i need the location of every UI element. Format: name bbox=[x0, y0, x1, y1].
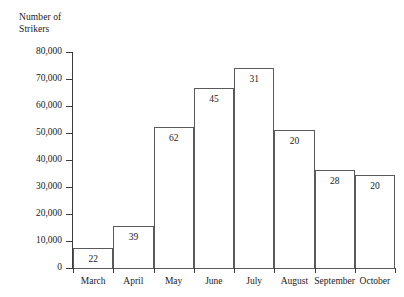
y-axis-tick-label: 80,000 bbox=[16, 47, 62, 57]
x-axis-tick-mark bbox=[154, 268, 155, 273]
y-axis-tick-label: 70,000 bbox=[16, 74, 62, 84]
bar bbox=[234, 68, 274, 269]
bar bbox=[274, 130, 314, 269]
y-axis-tick-mark bbox=[66, 160, 73, 161]
y-axis-tick-label-text: 50,000 bbox=[16, 128, 62, 138]
x-axis-tick-mark bbox=[113, 268, 114, 273]
bar-value-label: 20 bbox=[355, 181, 395, 191]
y-axis-tick-label: 20,000 bbox=[16, 209, 62, 219]
y-axis-tick-mark bbox=[66, 106, 73, 107]
y-axis-tick-label: 10,000 bbox=[16, 236, 62, 246]
y-axis-tick-mark bbox=[66, 187, 73, 188]
y-axis-tick-mark bbox=[66, 52, 73, 53]
y-axis-tick-label-text: 0 bbox=[16, 263, 62, 273]
y-axis-tick-label-text: 20,000 bbox=[16, 209, 62, 219]
bar-value-label: 31 bbox=[234, 74, 274, 84]
y-axis-tick-mark bbox=[66, 133, 73, 134]
y-axis-tick-label-text: 10,000 bbox=[16, 236, 62, 246]
y-axis-tick-mark bbox=[66, 241, 73, 242]
x-axis-tick-mark bbox=[395, 268, 396, 273]
bar-value-label: 22 bbox=[73, 254, 113, 264]
y-axis-tick-label-text: 30,000 bbox=[16, 182, 62, 192]
bar-value-label: 20 bbox=[274, 136, 314, 146]
y-axis-tick-label-text: 80,000 bbox=[16, 47, 62, 57]
y-axis-tick-mark bbox=[66, 214, 73, 215]
y-axis-title: Number of Strikers bbox=[19, 12, 61, 35]
bar bbox=[194, 88, 234, 269]
x-axis-tick-mark bbox=[315, 268, 316, 273]
y-axis-tick-label: 30,000 bbox=[16, 182, 62, 192]
bar-value-label: 62 bbox=[154, 133, 194, 143]
y-axis-tick-mark bbox=[66, 268, 73, 269]
x-axis-tick-mark bbox=[234, 268, 235, 273]
bar-value-label: 45 bbox=[194, 94, 234, 104]
bar bbox=[154, 127, 194, 269]
bar-chart: Number of Strikers 010,00020,00030,00040… bbox=[0, 0, 404, 297]
y-axis-tick-mark bbox=[66, 79, 73, 80]
x-axis-tick-mark bbox=[355, 268, 356, 273]
bar-value-label: 28 bbox=[315, 176, 355, 186]
x-axis-tick-mark bbox=[194, 268, 195, 273]
y-axis-tick-label-text: 70,000 bbox=[16, 74, 62, 84]
x-axis-category-label: October bbox=[349, 276, 401, 287]
y-axis-tick-label: 0 bbox=[16, 263, 62, 273]
x-axis-tick-mark bbox=[73, 268, 74, 273]
y-axis-tick-label-text: 40,000 bbox=[16, 155, 62, 165]
bar-value-label: 39 bbox=[113, 232, 153, 242]
y-axis-tick-label: 40,000 bbox=[16, 155, 62, 165]
y-axis-tick-label: 50,000 bbox=[16, 128, 62, 138]
y-axis-tick-label-text: 60,000 bbox=[16, 101, 62, 111]
y-axis-tick-label: 60,000 bbox=[16, 101, 62, 111]
x-axis-tick-mark bbox=[274, 268, 275, 273]
